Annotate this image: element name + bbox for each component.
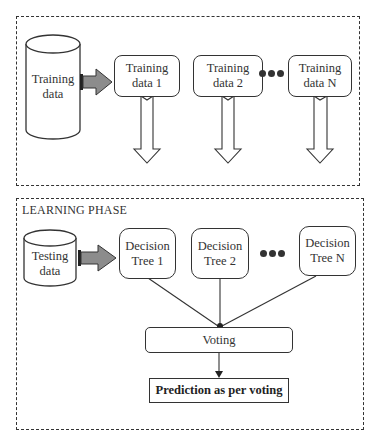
label-line: Decision [305,236,349,251]
voting-box: Voting [145,327,293,353]
ellipsis-dots-icon [260,250,285,257]
label-line: Decision [198,239,242,254]
label-line: data 2 [207,76,250,91]
arrow-right-icon [78,245,116,271]
training-data-label: Training data [26,72,80,102]
down-arrow-icon [134,91,333,163]
training-subset-1: Trainingdata 1 [114,55,180,97]
decision-tree-2: DecisionTree 2 [191,228,249,279]
label-line: data [24,264,76,279]
label-line: Tree 2 [198,254,242,269]
training-subset-n: Trainingdata N [288,55,352,97]
label-line: data N [299,76,342,91]
training-subset-2: Trainingdata 2 [193,55,263,97]
label-line: Tree N [305,251,349,266]
label-line: Training [126,61,169,76]
ellipsis-dots-icon [259,70,284,77]
label-line: Testing [24,249,76,264]
decision-tree-n: DecisionTree N [299,226,356,276]
decision-tree-1: DecisionTree 1 [119,228,176,279]
label-line: data 1 [126,76,169,91]
prediction-box: Prediction as per voting [149,378,289,403]
label-line: Training [207,61,250,76]
tree-to-voting-connectors [148,276,316,326]
label-line: data [26,87,80,102]
voting-to-prediction-arrow [215,352,223,378]
label-line: Training [26,72,80,87]
label-line: Training [299,61,342,76]
label-line: Decision [125,239,169,254]
learning-phase-title: LEARNING PHASE [22,203,127,218]
testing-data-label: Testing data [24,249,76,279]
arrow-right-icon [80,69,112,95]
label-line: Tree 1 [125,254,169,269]
